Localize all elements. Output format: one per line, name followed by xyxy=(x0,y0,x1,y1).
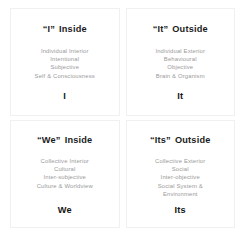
quadrant-diagram: “I”Inside Individual Interior Intentiona… xyxy=(0,0,245,236)
quadrant-title: “We”Inside xyxy=(37,136,92,145)
description-line: Objective xyxy=(155,63,205,71)
description-line: Self & Consciousness xyxy=(35,72,95,80)
description-line: Cultural xyxy=(37,165,93,173)
quadrant-upper-left[interactable]: “I”Inside Individual Interior Intentiona… xyxy=(10,8,120,116)
quadrant-label: Its xyxy=(127,206,235,215)
quadrant-description: Collective Exterior Social Inter-objecti… xyxy=(155,157,205,198)
description-line: Culture & Worldview xyxy=(37,182,93,190)
description-line: Environment xyxy=(155,190,205,198)
quadrant-label: We xyxy=(11,206,119,215)
quadrant-pronoun: “Its” xyxy=(150,135,171,145)
description-line: Intentional xyxy=(35,55,95,63)
quadrant-lower-right[interactable]: “Its”Outside Collective Exterior Social … xyxy=(126,120,236,228)
quadrant-description: Individual Exterior Behavioural Objectiv… xyxy=(155,47,205,80)
quadrant-perspective: Outside xyxy=(172,24,208,34)
description-line: Individual Exterior xyxy=(155,47,205,55)
description-line: Collective Interior xyxy=(37,157,93,165)
description-line: Collective Exterior xyxy=(155,157,205,165)
quadrant-perspective: Inside xyxy=(65,135,93,145)
description-line: Social xyxy=(155,165,205,173)
quadrant-perspective: Outside xyxy=(175,135,211,145)
description-line: Inter-objective xyxy=(155,173,205,181)
quadrant-title: “Its”Outside xyxy=(150,136,211,145)
quadrant-label: I xyxy=(11,92,119,101)
quadrant-perspective: Inside xyxy=(59,24,87,34)
quadrant-upper-right[interactable]: “It”Outside Individual Exterior Behaviou… xyxy=(126,8,236,116)
quadrant-grid: “I”Inside Individual Interior Intentiona… xyxy=(10,8,235,228)
description-line: Brain & Organism xyxy=(155,72,205,80)
quadrant-pronoun: “I” xyxy=(43,24,55,34)
quadrant-description: Collective Interior Cultural Inter-subje… xyxy=(37,157,93,190)
quadrant-label: It xyxy=(127,92,235,101)
quadrant-lower-left[interactable]: “We”Inside Collective Interior Cultural … xyxy=(10,120,120,228)
description-line: Individual Interior xyxy=(35,47,95,55)
quadrant-title: “I”Inside xyxy=(43,25,87,34)
description-line: Subjective xyxy=(35,63,95,71)
description-line: Social System & xyxy=(155,182,205,190)
quadrant-title: “It”Outside xyxy=(153,25,208,34)
description-line: Inter-subjective xyxy=(37,173,93,181)
description-line: Behavioural xyxy=(155,55,205,63)
quadrant-description: Individual Interior Intentional Subjecti… xyxy=(35,47,95,80)
quadrant-pronoun: “It” xyxy=(153,24,169,34)
quadrant-pronoun: “We” xyxy=(37,135,61,145)
